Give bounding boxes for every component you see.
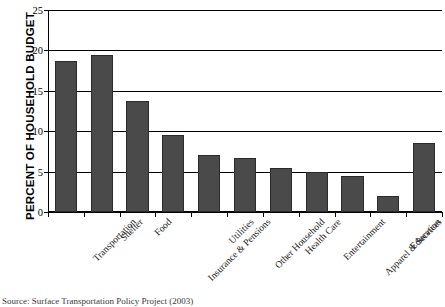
x-tick-label: Food: [151, 216, 173, 238]
x-tick-label: Entertainment: [341, 216, 387, 262]
bar: [126, 101, 148, 212]
x-tick-label: Shelter: [118, 216, 145, 243]
gridline: [48, 212, 442, 213]
bar: [413, 143, 435, 212]
bar: [162, 135, 184, 212]
y-tick-label: 15: [33, 85, 44, 96]
plot-area: 0510152025: [48, 10, 442, 212]
bar: [306, 172, 328, 212]
x-axis-tick-labels: TransportationShelterFoodInsurance & Pen…: [48, 216, 442, 294]
y-tick-label: 5: [38, 166, 43, 177]
x-tick-label: Education: [408, 216, 443, 251]
bar: [198, 155, 220, 212]
source-note: Source: Surface Transportation Policy Pr…: [2, 296, 193, 306]
y-axis-title: PERCENT OF HOUSEHOLD BUDGET: [24, 6, 36, 226]
bar-chart-figure: PERCENT OF HOUSEHOLD BUDGET 0510152025 T…: [0, 0, 445, 307]
x-tick-mark: [442, 212, 443, 217]
bar: [341, 176, 363, 212]
bar-series: [48, 10, 442, 212]
bar: [91, 55, 113, 212]
bar: [270, 168, 292, 212]
y-tick-label: 20: [33, 45, 44, 56]
y-tick-label: 10: [33, 126, 44, 137]
bar: [377, 196, 399, 212]
bar: [234, 158, 256, 212]
y-tick-label: 0: [38, 207, 43, 218]
y-tick-label: 25: [33, 5, 44, 16]
bar: [55, 61, 77, 212]
